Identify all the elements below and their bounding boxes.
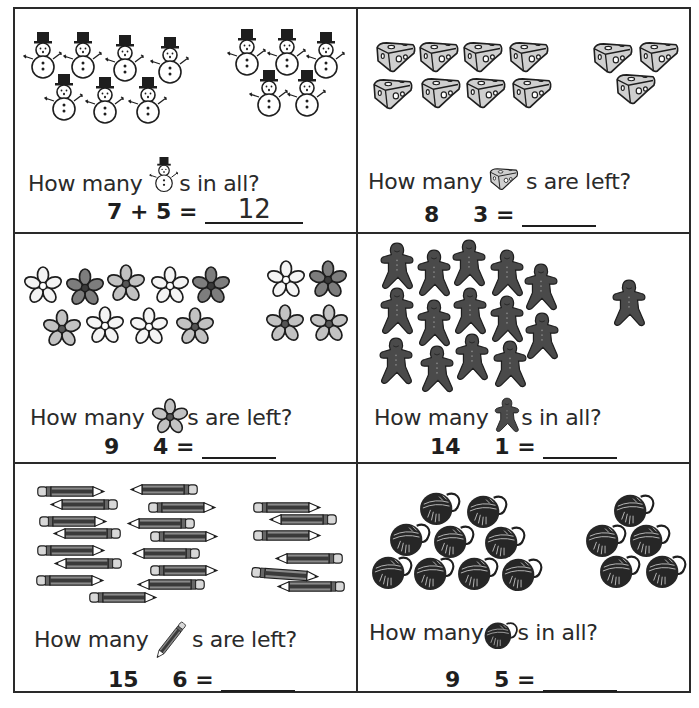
answer-blank[interactable] <box>221 668 295 692</box>
gingerbread-icon <box>522 262 560 312</box>
answer-blank[interactable]: 12 <box>205 200 303 224</box>
question-prefix: How many <box>374 405 488 430</box>
gingerbread-icon <box>418 344 456 394</box>
number-1: 14 <box>430 434 461 459</box>
question-text: How many s are left? <box>368 169 631 196</box>
pencil-icon <box>51 527 121 540</box>
pencil-icon <box>125 517 195 530</box>
flower-icon <box>175 307 215 347</box>
equals-sign: = <box>195 667 213 692</box>
pencil-icon <box>150 530 220 543</box>
problem-yarn: How manys in all? 9 5 = <box>358 464 691 693</box>
cheese-icon <box>462 40 504 74</box>
question-suffix: s are left? <box>526 169 631 194</box>
flower-icon <box>42 309 82 349</box>
answer-value: 12 <box>205 194 303 224</box>
equation: 9 4 = <box>104 434 276 459</box>
answer-blank[interactable] <box>202 435 276 459</box>
question-text: How many s in all? <box>374 404 601 434</box>
pencil-icon <box>36 574 106 587</box>
gingerbread-icon <box>453 332 491 382</box>
cheese-icon <box>375 40 417 74</box>
flower-icon <box>85 306 125 346</box>
pencil-icon <box>273 552 343 565</box>
question-prefix: How many <box>30 405 144 430</box>
number-2: 4 <box>153 434 168 459</box>
pencil-icon <box>135 578 205 591</box>
yarn-ball-icon <box>598 552 642 590</box>
equals-sign: = <box>517 434 535 459</box>
flower-icon <box>129 307 169 347</box>
equation: 7 + 5 = 12 <box>107 199 303 224</box>
gingerbread-icon <box>610 278 648 328</box>
gingerbread-icon <box>378 286 416 336</box>
answer-blank[interactable] <box>522 203 596 227</box>
cheese-icon <box>508 40 550 74</box>
question-prefix: How many <box>369 620 483 645</box>
equals-sign: = <box>176 434 194 459</box>
question-text: How many s are left? <box>34 626 297 656</box>
pencil-icon <box>37 544 107 557</box>
yarn-ball-icon <box>483 619 517 649</box>
number-2: 6 <box>172 667 187 692</box>
question-suffix: s are left? <box>192 627 297 652</box>
question-prefix: How many <box>368 169 482 194</box>
cheese-icon <box>615 72 657 106</box>
flower-icon <box>23 266 63 306</box>
number-1: 9 <box>445 667 460 692</box>
snowman-icon <box>128 76 168 126</box>
flower-icon <box>151 404 187 434</box>
pencil-icon <box>48 498 118 511</box>
cheese-icon <box>420 76 462 110</box>
equals-sign: = <box>496 202 514 227</box>
flower-icon <box>266 260 306 300</box>
addend-2: 5 <box>156 199 171 224</box>
pencil-icon <box>37 485 107 498</box>
problem-gingerbread: How many s in all? 14 1 = <box>358 234 691 462</box>
pencil-icon <box>148 501 218 514</box>
pencil-icon <box>275 580 345 593</box>
pencil-icon <box>155 626 185 656</box>
flower-icon <box>106 264 146 304</box>
problem-snowmen: How many s in all? 7 + 5 = 12 <box>15 9 356 232</box>
question-suffix: s are left? <box>187 405 292 430</box>
equation: 15 6 = <box>108 667 295 692</box>
flower-icon <box>150 266 190 306</box>
question-suffix: s in all? <box>517 620 597 645</box>
question-prefix: How many <box>28 171 142 196</box>
answer-blank[interactable] <box>543 435 617 459</box>
pencil-icon <box>253 529 323 542</box>
yarn-ball-icon <box>456 554 500 592</box>
gingerbread-icon <box>415 298 453 348</box>
flower-icon <box>265 304 305 344</box>
cheese-icon <box>372 77 414 111</box>
snowman-icon <box>287 69 327 119</box>
question-suffix: s in all? <box>179 171 259 196</box>
equation: 8 3 = <box>424 202 596 227</box>
flower-icon <box>309 304 349 344</box>
gingerbread-icon <box>495 404 521 434</box>
number-1: 9 <box>104 434 119 459</box>
flower-icon <box>191 266 231 306</box>
gingerbread-icon <box>491 339 529 389</box>
yarn-ball-icon <box>644 552 688 590</box>
number-1: 15 <box>108 667 139 692</box>
pencil-icon <box>150 564 220 577</box>
cheese-icon <box>418 40 460 74</box>
gingerbread-icon <box>415 248 453 298</box>
snowman-icon <box>249 69 289 119</box>
cheese-icon <box>465 76 507 110</box>
snowman-icon <box>85 76 125 126</box>
yarn-ball-icon <box>412 554 456 592</box>
cheese-icon <box>511 76 553 110</box>
flower-icon <box>308 260 348 300</box>
gingerbread-icon <box>450 238 488 288</box>
answer-blank[interactable] <box>543 668 617 692</box>
flower-icon <box>65 268 105 308</box>
snowman-icon <box>149 162 179 196</box>
yarn-ball-icon <box>370 553 414 591</box>
gingerbread-icon <box>378 241 416 291</box>
problem-pencils: How many s are left? 15 6 = <box>15 464 356 693</box>
equation: 9 5 = <box>445 667 617 692</box>
number-2: 5 <box>494 667 509 692</box>
